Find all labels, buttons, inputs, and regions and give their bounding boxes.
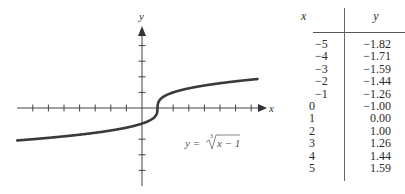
radical-index: 3 [210, 133, 213, 139]
table-row: 51.59 [297, 162, 397, 174]
equation-label: y = 3 x − 1 [184, 133, 240, 149]
equation-radicand: x − 1 [216, 137, 240, 149]
cell-y: −1.44 [327, 75, 397, 87]
table-row: 10.00 [297, 112, 397, 124]
y-axis-arrow-icon [138, 26, 146, 36]
table-header: x y [297, 8, 397, 24]
table-row: 31.26 [297, 137, 397, 149]
equation-lhs: y = [184, 137, 200, 149]
cube-root-plot: x y y = 3 x − 1 [0, 0, 290, 194]
cell-x: −4 [297, 50, 327, 62]
x-axis-label: x [268, 102, 274, 114]
y-axis-label: y [138, 10, 144, 22]
table-row: −4−1.71 [297, 50, 397, 62]
cell-y: 0.00 [327, 112, 397, 124]
cell-x: 1 [297, 112, 327, 124]
header-y: y [333, 8, 397, 24]
cell-y: 1.59 [327, 162, 397, 174]
values-table: x y −5−1.82 −4−1.71 −3−1.59 −2−1.44 −1−1… [297, 8, 397, 24]
header-x: x [297, 8, 333, 24]
cell-y: 1.26 [327, 137, 397, 149]
cell-y: −1.71 [327, 50, 397, 62]
x-axis-arrow-icon [258, 104, 267, 112]
cell-x: −2 [297, 75, 327, 87]
header-divider [313, 32, 405, 33]
plot-canvas: x y y = 3 x − 1 [0, 0, 290, 194]
cell-x: 5 [297, 162, 327, 174]
cube-root-curve [17, 79, 257, 140]
table-body: −5−1.82 −4−1.71 −3−1.59 −2−1.44 −1−1.26 … [297, 38, 397, 174]
cell-x: 3 [297, 137, 327, 149]
table-row: −2−1.44 [297, 75, 397, 87]
